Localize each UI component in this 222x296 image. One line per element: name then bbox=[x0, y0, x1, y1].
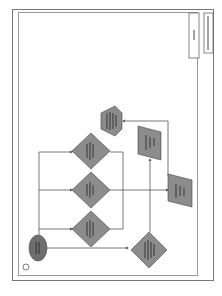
start-node bbox=[29, 235, 47, 261]
decision-node-4 bbox=[131, 232, 167, 268]
flowchart bbox=[0, 0, 222, 296]
decision-node-1 bbox=[72, 211, 110, 247]
end-node bbox=[101, 106, 122, 136]
io-node-1 bbox=[138, 126, 161, 160]
decision-node-3 bbox=[72, 133, 110, 169]
page-marker-icon bbox=[23, 264, 29, 270]
decision-node-2 bbox=[72, 172, 110, 208]
